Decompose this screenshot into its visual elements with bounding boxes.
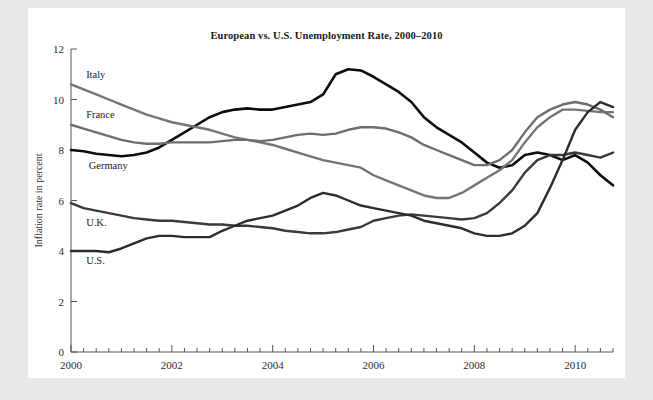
page-root: European vs. U.S. Unemployment Rate, 200…: [0, 0, 653, 400]
y-axis-title: Inflation rate in percent: [33, 153, 44, 247]
y-tick-label: 6: [59, 195, 65, 207]
chart-figure: European vs. U.S. Unemployment Rate, 200…: [28, 8, 625, 378]
series-line-germany: [71, 69, 613, 185]
series-label-italy: Italy: [86, 69, 106, 80]
series-label-france: France: [86, 109, 115, 120]
y-axis-title-text: Inflation rate in percent: [33, 153, 44, 247]
series-label-uk: U.K.: [86, 217, 106, 228]
x-tick-label: 2010: [564, 359, 587, 371]
y-tick-label: 12: [53, 43, 64, 55]
y-tick-label: 0: [59, 346, 65, 358]
x-axis: 200020022004200620082010: [60, 345, 613, 371]
x-tick-label: 2006: [363, 359, 386, 371]
x-tick-label: 2008: [463, 359, 486, 371]
x-tick-label: 2000: [60, 359, 83, 371]
y-tick-label: 10: [53, 94, 65, 106]
figure-card: European vs. U.S. Unemployment Rate, 200…: [28, 8, 625, 378]
series-label-us: U.S.: [86, 255, 105, 266]
series-lines: [71, 69, 613, 252]
y-axis: 024681012: [53, 43, 77, 358]
series-line-italy: [71, 84, 613, 198]
series-label-germany: Germany: [89, 160, 129, 171]
y-tick-label: 8: [59, 144, 65, 156]
line-chart-plot: 024681012 200020022004200620082010 Germa…: [28, 8, 625, 378]
x-tick-label: 2004: [262, 359, 285, 371]
y-tick-label: 2: [59, 296, 65, 308]
x-tick-label: 2002: [161, 359, 183, 371]
y-tick-label: 4: [59, 245, 65, 257]
